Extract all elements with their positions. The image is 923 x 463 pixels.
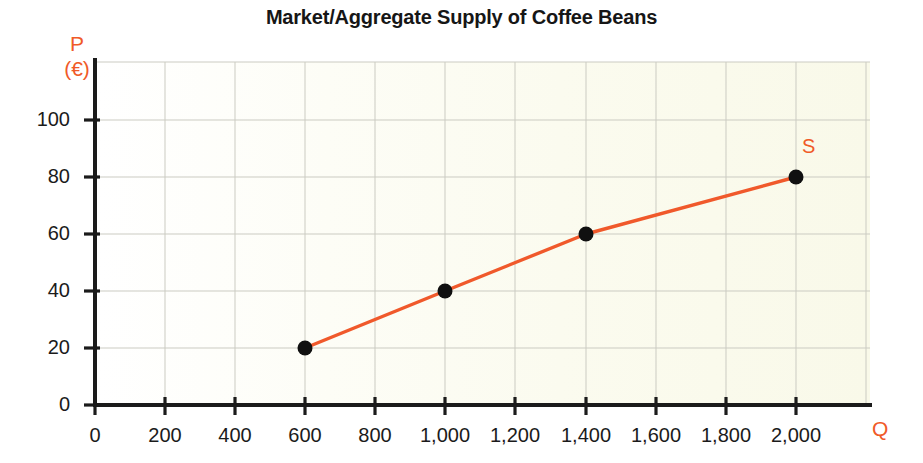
data-point — [789, 170, 804, 185]
data-point — [298, 341, 313, 356]
data-point — [579, 227, 594, 242]
y-tick-label: 40 — [10, 279, 70, 302]
y-axis-label-price: P — [62, 33, 92, 55]
y-axis-label-currency: (€) — [55, 58, 99, 80]
x-axis-label-quantity: Q — [872, 418, 888, 440]
data-point — [438, 284, 453, 299]
x-tick-label: 2,000 — [751, 424, 841, 447]
y-tick-label: 80 — [10, 165, 70, 188]
supply-curve-figure: Market/Aggregate Supply of Coffee Beans — [0, 0, 923, 463]
y-tick-label: 20 — [10, 336, 70, 359]
plot-canvas — [0, 0, 923, 463]
supply-curve-label: S — [802, 136, 815, 157]
y-tick-label: 100 — [10, 108, 70, 131]
y-tick-label: 0 — [10, 393, 70, 416]
y-tick-label: 60 — [10, 222, 70, 245]
